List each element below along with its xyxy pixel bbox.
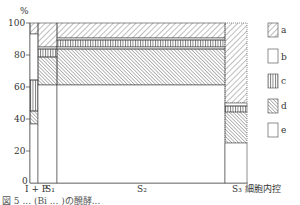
svg-text:d: d: [281, 101, 287, 111]
legend-item-b: b: [268, 49, 287, 63]
bar-s1: [38, 23, 57, 183]
y-tick-40: 40: [14, 114, 26, 124]
legend-item-e: e: [268, 123, 286, 137]
y-unit-label: %: [20, 6, 29, 16]
bar-ip: [30, 23, 38, 183]
x-label-s3: S₃ 細胞内控: [232, 183, 281, 194]
svg-text:b: b: [281, 52, 287, 62]
figure-caption: 図 5 ... (Bi ... )の醗酵...: [2, 194, 298, 205]
y-tick-80: 80: [14, 50, 26, 60]
legend-item-a: a: [268, 23, 287, 37]
y-ticks: 100 80 60 40 20 0: [8, 18, 30, 186]
bar-s3: [225, 23, 247, 183]
svg-text:e: e: [281, 125, 286, 135]
svg-text:c: c: [281, 76, 286, 86]
legend-item-c: c: [268, 74, 286, 88]
y-axis: % 100 80 60 40 20 0: [8, 6, 30, 186]
legend-item-d: d: [268, 99, 287, 113]
legend: a b c d e: [268, 23, 287, 137]
svg-text:a: a: [281, 25, 287, 35]
bar-s2: [57, 23, 225, 183]
x-label-s2: S₂: [137, 184, 147, 194]
y-tick-20: 20: [14, 146, 26, 156]
stacked-bar-chart: % 100 80 60 40 20 0: [0, 0, 300, 205]
y-tick-100: 100: [8, 18, 25, 28]
x-labels: I + P S₁ S₂ S₃ 細胞内控: [25, 183, 281, 194]
x-label-s1: S₁: [45, 184, 55, 194]
y-tick-60: 60: [14, 82, 26, 92]
